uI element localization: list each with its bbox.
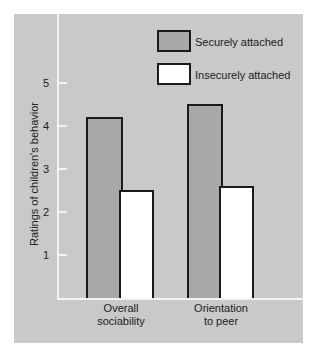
y-tick-label: 4 xyxy=(40,120,52,132)
y-tick xyxy=(59,82,67,84)
legend-swatch-insecure xyxy=(157,63,191,85)
y-tick xyxy=(59,168,67,170)
y-tick xyxy=(59,125,67,127)
bar-secure-1 xyxy=(86,117,123,298)
legend-label-secure: Securely attached xyxy=(195,36,283,48)
bar-insecure-1 xyxy=(119,190,154,298)
y-axis xyxy=(57,14,59,300)
category-label: Orientationto peer xyxy=(176,302,266,328)
category-label: Overallsociability xyxy=(76,302,166,328)
legend-label-insecure: Insecurely attached xyxy=(195,69,290,81)
y-tick-label: 1 xyxy=(40,249,52,261)
bar-insecure-2 xyxy=(219,186,254,298)
y-tick xyxy=(59,254,67,256)
y-axis-label: Ratings of children's behavior xyxy=(28,102,40,246)
y-tick-label: 5 xyxy=(40,77,52,89)
bar-secure-2 xyxy=(187,104,223,298)
y-tick-label: 2 xyxy=(40,206,52,218)
x-axis xyxy=(57,298,303,300)
legend-swatch-secure xyxy=(157,30,191,52)
y-tick xyxy=(59,211,67,213)
y-tick-label: 3 xyxy=(40,163,52,175)
